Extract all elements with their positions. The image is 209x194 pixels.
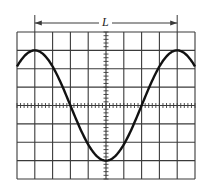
oscilloscope-diagram (0, 0, 209, 194)
dimension-label-L: L (99, 16, 112, 28)
